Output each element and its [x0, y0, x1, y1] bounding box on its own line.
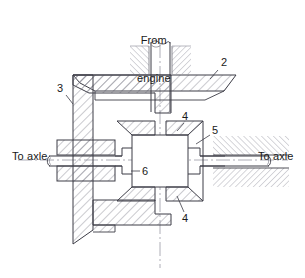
callout-4-bottom-number: 4: [182, 212, 188, 224]
from-engine-line2: engine: [137, 72, 171, 85]
callout-5-number: 5: [212, 124, 218, 136]
callout-6-number: 6: [142, 165, 148, 177]
part-4-cone-lower-left: [117, 187, 155, 201]
left-output-flange-upper: [57, 140, 115, 155]
right-bearing-housing-lower: [213, 168, 289, 187]
leader-3: [66, 95, 73, 104]
part-4-cone-upper-left: [117, 121, 155, 135]
part-5-output-hub: [188, 121, 225, 201]
to-axle-right-label: To axle: [258, 150, 294, 163]
part-4-cone-upper-right: [166, 121, 203, 135]
from-engine-label: From engine: [137, 9, 171, 109]
engine-shaft-bearing-right: [172, 46, 191, 74]
technical-diagram: From engine To axle To axle 2 3 4 5 6 4: [0, 0, 305, 278]
part-4-cone-lower-right: [166, 187, 203, 201]
part-6-central-chamber: [132, 135, 188, 187]
callout-2-number: 2: [221, 56, 227, 68]
callout-3-number: 3: [57, 82, 63, 94]
from-engine-line1: From: [137, 34, 171, 47]
callout-4-top-number: 4: [182, 110, 188, 122]
to-axle-left-label: To axle: [12, 150, 48, 163]
left-output-flange-lower: [57, 166, 115, 181]
